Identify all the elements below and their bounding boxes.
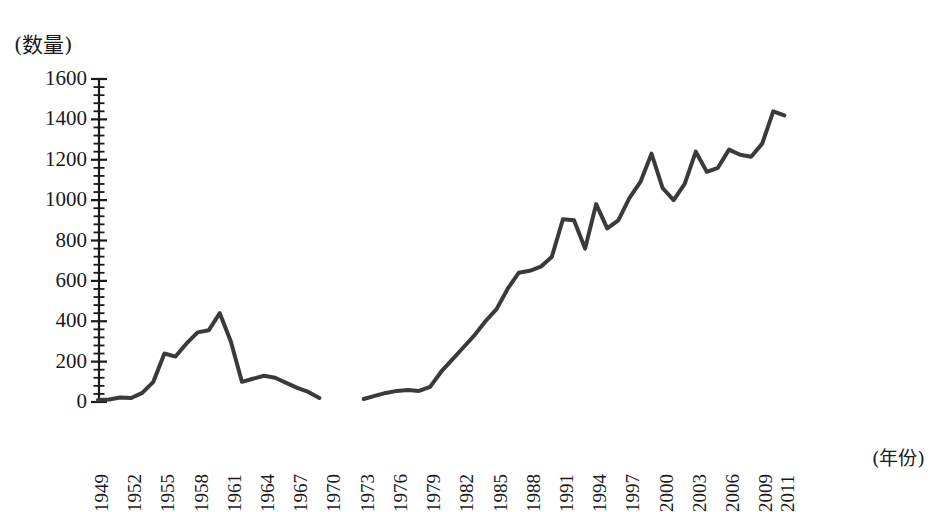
series-line-1 (364, 111, 785, 399)
y-axis-line-and-ticks (91, 79, 107, 402)
series-line-0 (98, 313, 319, 400)
data-series-lines (98, 111, 784, 400)
